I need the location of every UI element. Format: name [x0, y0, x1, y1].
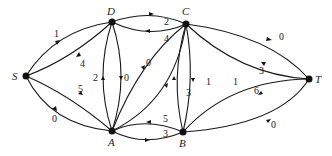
edge-C-T — [186, 24, 309, 79]
edge-label-B-C: 1 — [206, 76, 211, 87]
node-label-C: C — [182, 5, 190, 17]
edge-T-C — [186, 24, 309, 79]
edge-label-C-D: 4 — [164, 33, 169, 44]
diagram-svg: S D C T A B 1 4 0 5 2 4 2 0 0 3 5 3 1 1 … — [0, 0, 332, 156]
node-B — [180, 129, 187, 136]
edge-label-A-C: 0 — [146, 57, 151, 68]
edge-A-D — [103, 22, 112, 131]
edge-label-C-T: 0 — [279, 31, 284, 42]
node-D — [109, 19, 116, 26]
edge-label-S-A: 0 — [52, 113, 57, 124]
node-label-T: T — [315, 73, 322, 85]
edge-label-A-D: 2 — [93, 72, 98, 83]
edge-label-B-A: 5 — [163, 113, 168, 124]
edge-label-S-D: 1 — [54, 28, 59, 39]
edge-D-C — [112, 15, 186, 24]
node-C — [183, 21, 190, 28]
edge-B-T — [183, 79, 309, 132]
edge-label-D-S: 4 — [80, 58, 85, 69]
network-diagram: S D C T A B 1 4 0 5 2 4 2 0 0 3 5 3 1 1 … — [0, 0, 332, 156]
node-label-S: S — [12, 70, 18, 82]
edge-label-D-A: 0 — [124, 72, 129, 83]
edge-label-D-C: 2 — [164, 16, 169, 27]
edge-label-T-B: 6 — [254, 85, 259, 96]
edge-B-C — [177, 24, 186, 132]
edge-label-C-A: 3 — [186, 87, 191, 98]
edge-label-B-T: 0 — [271, 119, 276, 130]
node-A — [109, 128, 116, 135]
edge-A-S — [26, 76, 112, 131]
edge-S-A — [26, 76, 112, 131]
node-S — [23, 73, 30, 80]
edge-label-A-S: 5 — [78, 83, 83, 94]
edge-label-A-B: 3 — [163, 128, 168, 139]
edge-D-S — [26, 22, 112, 76]
edge-S-D — [26, 22, 112, 76]
edge-C-B — [183, 24, 190, 132]
edge-label-T-C: 3 — [259, 65, 264, 76]
node-label-A: A — [107, 136, 115, 148]
arrowheads — [52, 12, 272, 142]
edge-label-C-B: 1 — [233, 76, 238, 87]
node-label-D: D — [106, 5, 115, 17]
node-label-B: B — [179, 137, 186, 149]
edge-T-B — [183, 79, 309, 132]
edge-A-B — [112, 131, 183, 140]
node-T — [306, 76, 313, 83]
